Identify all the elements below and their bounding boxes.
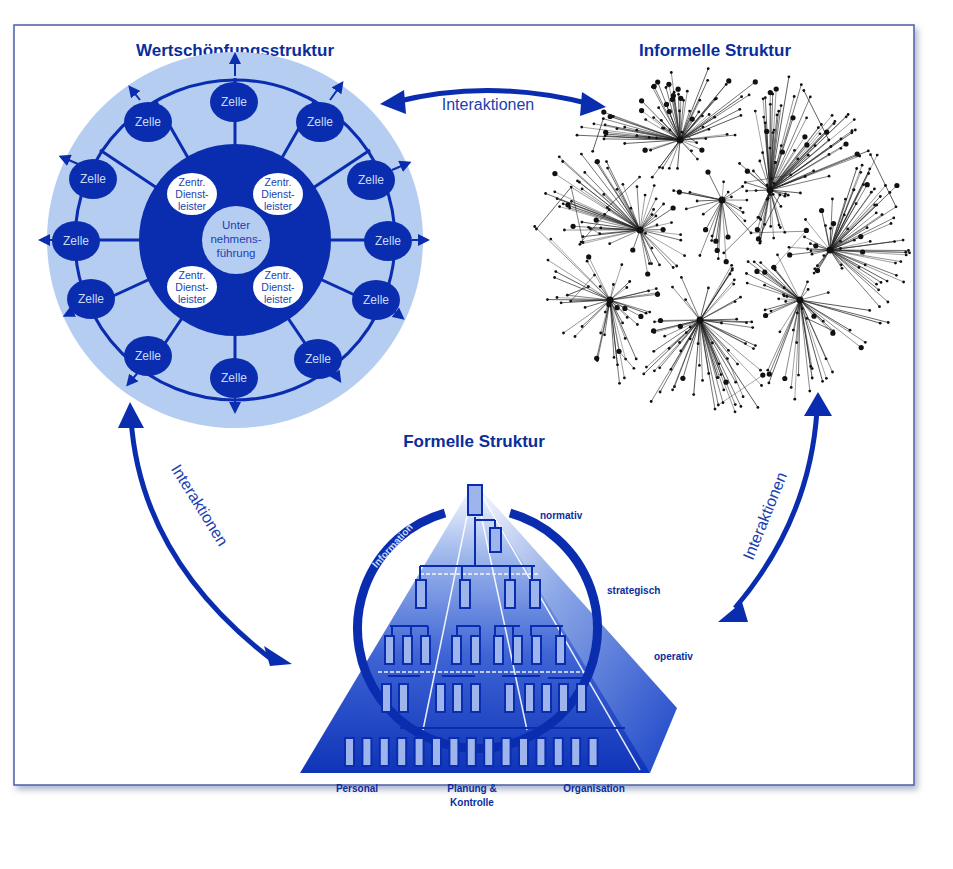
svg-text:Zelle: Zelle bbox=[358, 173, 384, 187]
svg-text:Zelle: Zelle bbox=[80, 172, 106, 186]
cell: Zelle bbox=[69, 159, 117, 199]
cell: Zelle bbox=[296, 102, 344, 142]
svg-text:Zelle: Zelle bbox=[135, 349, 161, 363]
svg-text:Zentr.: Zentr. bbox=[265, 176, 292, 188]
cell: Zelle bbox=[124, 102, 172, 142]
cell: Zelle bbox=[124, 336, 172, 376]
interaction-label-top: Interaktionen bbox=[442, 96, 535, 113]
function-control: Kontrolle bbox=[450, 797, 494, 808]
svg-text:leister: leister bbox=[264, 293, 293, 305]
svg-text:Zelle: Zelle bbox=[63, 234, 89, 248]
cell: Zelle bbox=[52, 221, 100, 261]
svg-text:Zelle: Zelle bbox=[221, 371, 247, 385]
svg-text:Zelle: Zelle bbox=[221, 95, 247, 109]
function-organisation: Organisation bbox=[563, 783, 625, 794]
cell: Zelle bbox=[347, 160, 395, 200]
svg-text:Zentr.: Zentr. bbox=[179, 269, 206, 281]
level-normativ: normativ bbox=[540, 510, 583, 521]
central-service: Zentr. Dienst- leister bbox=[253, 266, 303, 308]
informal-structure-title: Informelle Struktur bbox=[639, 41, 791, 60]
level-operativ: operativ bbox=[654, 651, 693, 662]
svg-text:Zelle: Zelle bbox=[375, 234, 401, 248]
cell: Zelle bbox=[364, 221, 412, 261]
cell: Zelle bbox=[294, 339, 342, 379]
function-personal: Personal bbox=[336, 783, 378, 794]
formal-structure-title: Formelle Struktur bbox=[403, 432, 545, 451]
management-structures-diagram: Wertschöpfungsstruktur bbox=[0, 0, 953, 869]
svg-text:Zelle: Zelle bbox=[78, 292, 104, 306]
cell: Zelle bbox=[67, 279, 115, 319]
svg-text:Dienst-: Dienst- bbox=[261, 188, 295, 200]
svg-text:Zelle: Zelle bbox=[307, 115, 333, 129]
svg-text:nehmens-: nehmens- bbox=[210, 233, 261, 245]
svg-text:Zelle: Zelle bbox=[135, 115, 161, 129]
corporate-management: Unter nehmens- führung bbox=[202, 206, 270, 274]
svg-text:Zelle: Zelle bbox=[363, 293, 389, 307]
function-planning: Planung & bbox=[447, 783, 496, 794]
svg-text:Zelle: Zelle bbox=[305, 352, 331, 366]
central-service: Zentr. Dienst- leister bbox=[253, 173, 303, 215]
central-service: Zentr. Dienst- leister bbox=[167, 266, 217, 308]
svg-text:Dienst-: Dienst- bbox=[175, 281, 209, 293]
svg-text:Zentr.: Zentr. bbox=[265, 269, 292, 281]
svg-text:leister: leister bbox=[264, 200, 293, 212]
svg-text:leister: leister bbox=[178, 293, 207, 305]
central-service: Zentr. Dienst- leister bbox=[167, 173, 217, 215]
cell: Zelle bbox=[210, 82, 258, 122]
svg-text:leister: leister bbox=[178, 200, 207, 212]
svg-text:Zentr.: Zentr. bbox=[179, 176, 206, 188]
cell: Zelle bbox=[352, 280, 400, 320]
svg-text:führung: führung bbox=[216, 247, 255, 259]
svg-text:Dienst-: Dienst- bbox=[261, 281, 295, 293]
level-strategisch: strategisch bbox=[607, 585, 660, 596]
svg-text:Unter: Unter bbox=[222, 219, 250, 231]
cell: Zelle bbox=[210, 358, 258, 398]
svg-text:Dienst-: Dienst- bbox=[175, 188, 209, 200]
